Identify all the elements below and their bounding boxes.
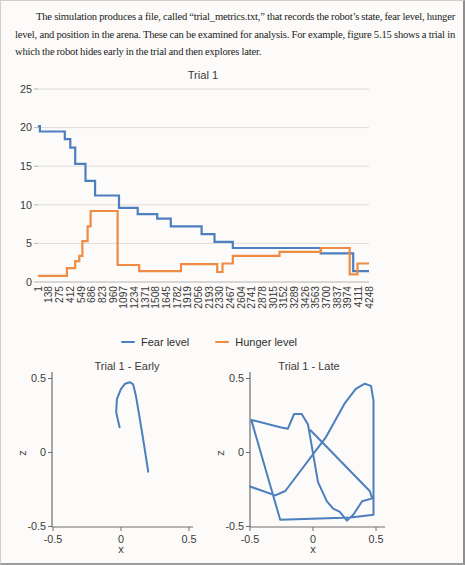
x-tick-label: 549 xyxy=(76,286,87,303)
y-tick-label: 10 xyxy=(20,199,32,211)
x-tick-label: 1234 xyxy=(129,286,140,309)
x-tick-label: 1782 xyxy=(172,286,183,309)
y-tick-label: 15 xyxy=(20,160,32,172)
x-tick-label: 2878 xyxy=(257,286,268,309)
x-tick-label: 0.5 xyxy=(368,533,383,545)
fear-line-swatch-icon xyxy=(121,341,135,344)
y-tick-label: 0 xyxy=(40,446,46,458)
x-tick-label: 3837 xyxy=(332,286,343,309)
y-tick-label: 0.5 xyxy=(229,372,244,384)
x-tick-label: 1508 xyxy=(150,286,161,309)
legend-item-fear: Fear level xyxy=(121,336,189,348)
x-tick-label: 3426 xyxy=(300,286,311,309)
late-x-axis-label: x xyxy=(310,543,316,555)
x-tick-label: 3563 xyxy=(310,286,321,309)
x-tick-label: -0.5 xyxy=(44,533,63,545)
legend-label-fear: Fear level xyxy=(141,336,189,348)
x-tick-label: 2604 xyxy=(236,286,247,309)
x-tick-label: 412 xyxy=(65,286,76,303)
x-tick-label: 2193 xyxy=(204,286,215,309)
y-tick-label: -0.5 xyxy=(225,520,244,532)
y-tick-label: 5 xyxy=(26,237,32,249)
x-tick-label: 1371 xyxy=(140,286,151,309)
main-chart-legend: Fear level Hunger level xyxy=(1,335,417,349)
x-tick-label: 2467 xyxy=(225,286,236,309)
late-chart-title: Trial 1 - Late xyxy=(278,360,339,372)
trajectory-line xyxy=(116,382,148,472)
x-tick-label: 960 xyxy=(108,286,119,303)
generated-chart-graphics: 0510152025113827541254968682396010971234… xyxy=(20,83,385,545)
main-chart-title: Trial 1 xyxy=(188,69,219,81)
fear-level-line xyxy=(38,126,369,271)
x-tick-label: 2741 xyxy=(246,286,257,309)
x-tick-label: 3289 xyxy=(289,286,300,309)
x-tick-label: 2330 xyxy=(214,286,225,309)
x-tick-label: 1645 xyxy=(161,286,172,309)
scanned-book-page: The simulation produces a file, called “… xyxy=(0,0,465,565)
hunger-line-swatch-icon xyxy=(215,341,229,344)
x-tick-label: 3974 xyxy=(342,286,353,309)
x-tick-label: 275 xyxy=(54,286,65,303)
x-tick-label: 4248 xyxy=(364,286,375,309)
x-tick-label: 1 xyxy=(33,286,44,292)
late-y-axis-label: z xyxy=(214,450,226,456)
x-tick-label: 3152 xyxy=(278,286,289,309)
early-y-axis-label: z xyxy=(16,450,28,456)
x-tick-label: 3700 xyxy=(321,286,332,309)
x-tick-label: 3015 xyxy=(268,286,279,309)
x-tick-label: 1097 xyxy=(118,286,129,309)
x-tick-label: 138 xyxy=(43,286,54,303)
y-tick-label: 0 xyxy=(238,446,244,458)
x-tick-label: 4111 xyxy=(353,286,364,307)
y-tick-label: 20 xyxy=(20,121,32,133)
x-tick-label: 686 xyxy=(86,286,97,303)
y-tick-label: -0.5 xyxy=(27,520,46,532)
charts-canvas: 0510152025113827541254968682396010971234… xyxy=(1,1,465,565)
early-chart-title: Trial 1 - Early xyxy=(95,360,160,372)
y-tick-label: 0 xyxy=(26,276,32,288)
x-tick-label: -0.5 xyxy=(241,533,260,545)
legend-item-hunger: Hunger level xyxy=(215,336,297,348)
x-tick-label: 823 xyxy=(97,286,108,303)
x-tick-label: 1919 xyxy=(182,286,193,309)
early-x-axis-label: x xyxy=(118,543,124,555)
y-tick-label: 25 xyxy=(20,83,32,95)
y-tick-label: 0.5 xyxy=(31,372,46,384)
x-tick-label: 0.5 xyxy=(181,533,196,545)
legend-label-hunger: Hunger level xyxy=(235,336,297,348)
trajectory-line xyxy=(250,384,374,521)
x-tick-label: 2056 xyxy=(193,286,204,309)
